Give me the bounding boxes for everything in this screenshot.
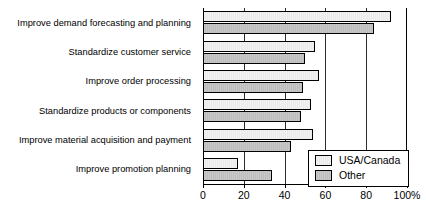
bar-4-0: [203, 129, 313, 140]
legend-swatch-icon-usa-canada: [315, 155, 332, 166]
category-axis-labels: Improve demand forecasting and planningS…: [0, 8, 197, 184]
gridline: [244, 8, 245, 184]
bar-2-1: [203, 82, 303, 93]
bar-5-0: [203, 158, 238, 169]
legend-label-other: Other: [339, 170, 365, 181]
bar-0-0: [203, 11, 391, 22]
chart-legend: USA/Canada Other: [308, 150, 409, 187]
category-label: Standardize customer service: [69, 47, 191, 57]
x-axis-tick-label: 60: [320, 190, 332, 201]
horizontal-bar-chart: Improve demand forecasting and planningS…: [0, 0, 426, 218]
x-axis-tick-label: 80: [360, 190, 372, 201]
gridline: [285, 8, 286, 184]
x-axis-tick: [244, 184, 245, 188]
category-label: Standardize products or components: [39, 106, 191, 116]
legend-item-usa-canada: USA/Canada: [315, 155, 400, 166]
bar-5-1: [203, 170, 272, 181]
x-axis-tick: [203, 184, 204, 188]
bar-4-1: [203, 141, 291, 152]
x-axis-tick-label: 40: [279, 190, 291, 201]
x-axis-tick: [285, 184, 286, 188]
legend-item-other: Other: [315, 170, 365, 181]
category-label: Improve material acquisition and payment: [19, 135, 191, 145]
category-label: Improve promotion planning: [76, 164, 191, 174]
x-axis-tick-label: 100%: [394, 190, 421, 201]
category-label: Improve demand forecasting and planning: [17, 18, 191, 28]
x-axis-tick-label: 20: [238, 190, 250, 201]
bar-3-1: [203, 111, 301, 122]
bar-1-0: [203, 41, 315, 52]
bar-0-1: [203, 23, 374, 34]
legend-swatch-icon-other: [315, 170, 332, 181]
bar-3-0: [203, 99, 311, 110]
bar-2-0: [203, 70, 319, 81]
x-axis-tick-label: 0: [200, 190, 206, 201]
category-label: Improve order processing: [86, 76, 191, 86]
legend-label-usa-canada: USA/Canada: [339, 155, 400, 166]
bar-1-1: [203, 53, 305, 64]
